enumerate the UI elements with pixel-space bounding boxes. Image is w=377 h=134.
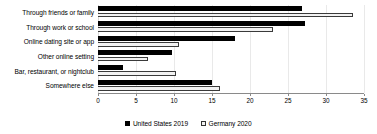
category-label: Somewhere else xyxy=(0,82,94,89)
bar-united-states xyxy=(98,80,212,85)
category-label: Through friends or family xyxy=(0,9,94,16)
tick-label: 30 xyxy=(316,97,336,105)
tick-label: 25 xyxy=(278,97,298,105)
tick-mark xyxy=(212,94,213,96)
tick-mark xyxy=(326,94,327,96)
value-axis-ticks: 05101520253035 xyxy=(98,94,364,106)
tick-mark xyxy=(174,94,175,96)
category-label: Other online setting xyxy=(0,53,94,60)
bar-germany xyxy=(98,57,148,62)
bar-germany xyxy=(98,13,353,18)
hatched-square-icon xyxy=(201,121,206,126)
tick-mark xyxy=(250,94,251,96)
bar-united-states xyxy=(98,50,172,55)
bar-united-states xyxy=(98,21,305,26)
bar-group xyxy=(98,49,364,64)
bar-group xyxy=(98,64,364,79)
chart-legend: United States 2019Germany 2020 xyxy=(0,117,377,129)
bar-germany xyxy=(98,27,273,32)
bar-united-states xyxy=(98,36,235,41)
category-axis-labels: Through friends or familyThrough work or… xyxy=(0,5,94,93)
plot-area xyxy=(98,5,364,93)
bar-group xyxy=(98,78,364,93)
tick-mark xyxy=(98,94,99,96)
legend-label: Germany 2020 xyxy=(209,120,252,127)
tick-label: 15 xyxy=(202,97,222,105)
bar-group xyxy=(98,5,364,20)
bar-germany xyxy=(98,86,220,91)
solid-square-icon xyxy=(125,121,130,126)
bar-chart: Through friends or familyThrough work or… xyxy=(0,0,377,134)
tick-mark xyxy=(364,94,365,96)
category-label: Through work or school xyxy=(0,24,94,31)
bar-group xyxy=(98,34,364,49)
gridline xyxy=(364,5,365,93)
legend-item[interactable]: Germany 2020 xyxy=(201,120,252,127)
plot-wrapper: Through friends or familyThrough work or… xyxy=(0,0,377,96)
tick-label: 5 xyxy=(126,97,146,105)
tick-label: 0 xyxy=(88,97,108,105)
bar-united-states xyxy=(98,6,302,11)
tick-label: 35 xyxy=(354,97,374,105)
bar-germany xyxy=(98,42,179,47)
tick-label: 20 xyxy=(240,97,260,105)
legend-label: United States 2019 xyxy=(133,120,188,127)
bar-group xyxy=(98,20,364,35)
bar-united-states xyxy=(98,65,123,70)
tick-mark xyxy=(288,94,289,96)
tick-mark xyxy=(136,94,137,96)
tick-label: 10 xyxy=(164,97,184,105)
legend-item[interactable]: United States 2019 xyxy=(125,120,188,127)
bar-germany xyxy=(98,71,176,76)
category-label: Bar, restaurant, or nightclub xyxy=(0,68,94,75)
category-label: Online dating site or app xyxy=(0,38,94,45)
